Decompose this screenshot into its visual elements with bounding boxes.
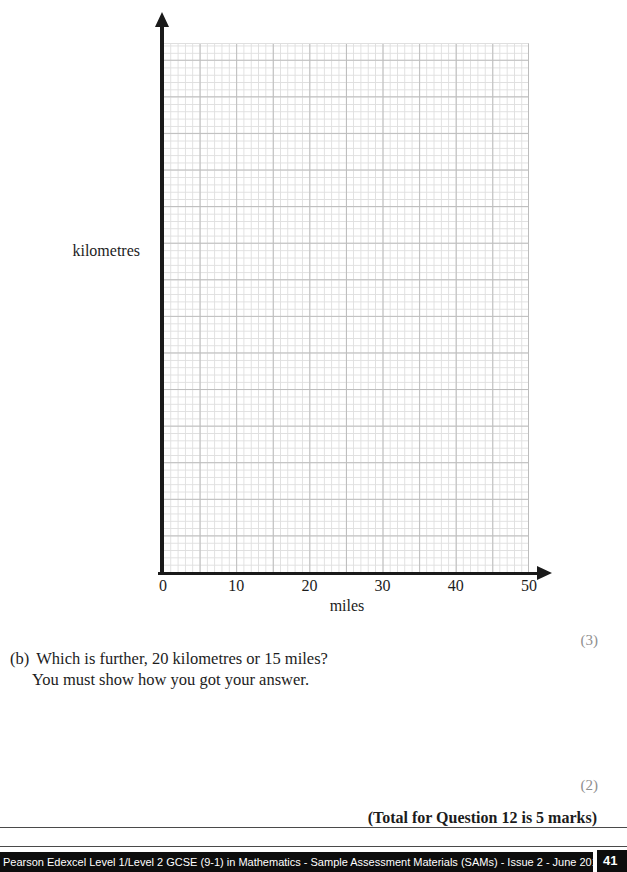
question-part-b: (b) Which is further, 20 kilometres or 1… xyxy=(10,649,328,669)
answer-space xyxy=(10,695,610,773)
x-axis-arrow-icon xyxy=(537,566,552,580)
x-tick-40: 40 xyxy=(448,577,464,595)
graph-paper-grid xyxy=(163,43,529,572)
question-part-label: (b) xyxy=(10,649,29,669)
bottom-rule-upper xyxy=(0,827,627,828)
x-tick-0: 0 xyxy=(159,577,167,595)
footer-bar: Pearson Edexcel Level 1/Level 2 GCSE (9-… xyxy=(0,852,593,872)
question-text-line1: Which is further, 20 kilometres or 15 mi… xyxy=(36,649,328,669)
exam-paper-page: kilometres miles 0 10 20 30 40 50 (3) (b… xyxy=(0,0,627,872)
x-axis-line xyxy=(158,572,540,576)
footer-text: Pearson Edexcel Level 1/Level 2 GCSE (9-… xyxy=(3,856,593,868)
y-axis-label: kilometres xyxy=(48,241,140,261)
page-number-badge: 41 xyxy=(597,850,627,872)
question-text-line2: You must show how you got your answer. xyxy=(32,670,309,690)
x-tick-50: 50 xyxy=(521,577,537,595)
part-a-marks-badge: (3) xyxy=(581,632,599,649)
x-tick-10: 10 xyxy=(228,577,244,595)
x-axis-label: miles xyxy=(297,596,397,616)
page-number: 41 xyxy=(603,853,617,868)
x-tick-20: 20 xyxy=(301,577,317,595)
total-marks-line: (Total for Question 12 is 5 marks) xyxy=(368,809,597,827)
y-axis-line xyxy=(160,24,164,575)
bottom-rule-lower xyxy=(0,846,627,847)
x-tick-30: 30 xyxy=(375,577,391,595)
part-b-marks-badge: (2) xyxy=(581,777,599,794)
